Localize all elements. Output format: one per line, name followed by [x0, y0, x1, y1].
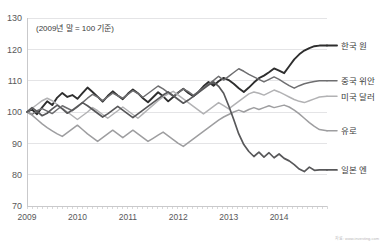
x-tick-label-2013: 2013 — [219, 212, 238, 222]
y-tick-label-70: 70 — [12, 201, 22, 211]
legend-label-3: 유로 — [341, 126, 357, 136]
legend-label-1: 중국 위안 — [341, 76, 375, 86]
exchange-rate-line-chart: 708090100110120130 200920102011201220132… — [0, 0, 381, 243]
source-note: 자료: www.investing.com — [335, 235, 380, 241]
y-tick-label-90: 90 — [12, 139, 22, 149]
legend-labels-group: 한국 원중국 위안미국 달러유로일본 엔 — [341, 41, 375, 175]
legend-leader-lines-group — [327, 46, 337, 170]
x-tick-label-2014: 2014 — [270, 212, 289, 222]
y-tick-label-110: 110 — [8, 76, 22, 86]
series-line-0 — [27, 46, 327, 115]
legend-label-2: 미국 달러 — [341, 92, 375, 102]
chart-canvas: 708090100110120130 200920102011201220132… — [0, 0, 381, 243]
xaxis-labels-group: 200920102011201220132014 — [18, 212, 289, 222]
y-tick-label-100: 100 — [7, 107, 22, 117]
x-tick-label-2010: 2010 — [68, 212, 87, 222]
y-tick-label-80: 80 — [12, 170, 22, 180]
y-tick-label-130: 130 — [7, 13, 22, 23]
series-lines-group — [27, 46, 327, 172]
x-tick-label-2011: 2011 — [119, 212, 138, 222]
legend-label-0: 한국 원 — [341, 41, 367, 51]
y-tick-label-120: 120 — [7, 45, 22, 55]
legend-label-4: 일본 엔 — [341, 165, 367, 175]
gridlines-group — [27, 18, 327, 206]
x-tick-label-2012: 2012 — [169, 212, 188, 222]
yaxis-labels-group: 708090100110120130 — [7, 13, 22, 211]
x-tick-label-2009: 2009 — [18, 212, 37, 222]
series-line-1 — [27, 69, 327, 115]
baseline-annotation: (2009년 말 = 100 기준) — [36, 23, 114, 33]
